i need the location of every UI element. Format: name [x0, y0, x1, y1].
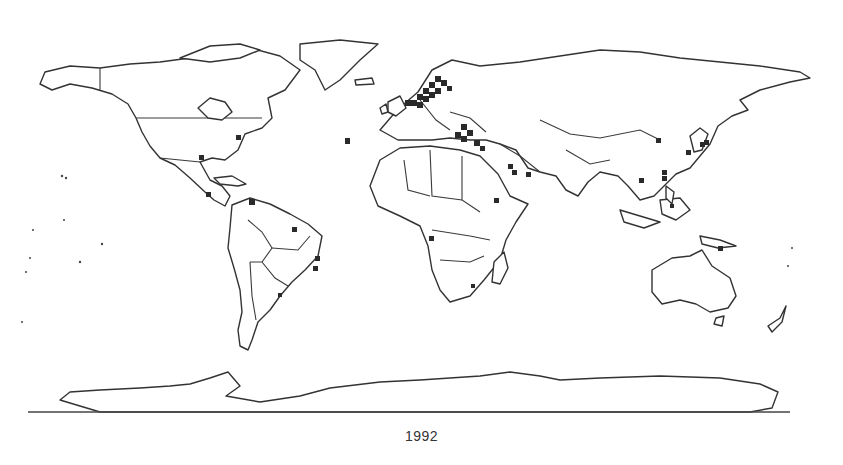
continent-south-america: [228, 198, 322, 350]
continent-antarctica: [60, 372, 778, 412]
continent-africa: [370, 146, 528, 302]
figure-caption: 1992: [0, 428, 843, 444]
continent-north-america: [40, 40, 378, 206]
continent-oceania: [652, 250, 786, 332]
world-map-figure: 1992: [0, 0, 843, 465]
world-map: [0, 0, 843, 465]
